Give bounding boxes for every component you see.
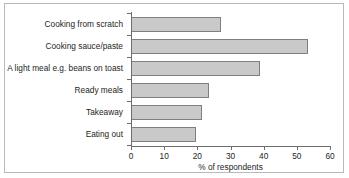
category-axis-labels: Cooking from scratch Cooking sauce/paste… (5, 13, 127, 145)
bar (131, 61, 260, 76)
x-axis-tick-label: 10 (160, 151, 169, 161)
category-label: Cooking sauce/paste (5, 41, 127, 51)
category-label: A light meal e.g. beans on toast (5, 63, 127, 73)
bar-row (131, 105, 331, 120)
bar (131, 17, 221, 32)
x-axis-tick-label: 50 (292, 151, 301, 161)
x-axis-tick (231, 146, 232, 150)
x-axis-tick (297, 146, 298, 150)
x-axis-tick-label: 40 (259, 151, 268, 161)
y-axis-tick (127, 79, 131, 80)
x-axis-tick (131, 146, 132, 150)
bar (131, 105, 202, 120)
x-axis-tick (330, 146, 331, 150)
bar-row (131, 39, 331, 54)
y-axis-tick (127, 101, 131, 102)
x-axis-tick (264, 146, 265, 150)
bar-chart-plot: Cooking from scratch Cooking sauce/paste… (5, 4, 345, 174)
bar (131, 127, 196, 142)
bar-row (131, 17, 331, 32)
x-axis-tick-label: 0 (129, 151, 134, 161)
category-label: Eating out (5, 129, 127, 139)
x-axis-title: % of respondents (131, 162, 330, 172)
x-axis-tick-label: 60 (325, 151, 334, 161)
x-axis-tick (197, 146, 198, 150)
category-label: Takeaway (5, 107, 127, 117)
bar (131, 39, 308, 54)
bar-row (131, 127, 331, 142)
y-axis-tick (127, 13, 131, 14)
x-axis-tick-label: 30 (226, 151, 235, 161)
bars-area (131, 13, 331, 145)
y-axis-tick (127, 123, 131, 124)
bar-row (131, 61, 331, 76)
y-axis-line (131, 12, 132, 146)
y-axis-tick (127, 57, 131, 58)
bar (131, 83, 209, 98)
category-label: Cooking from scratch (5, 19, 127, 29)
x-axis-tick-label: 20 (193, 151, 202, 161)
y-axis-tick (127, 35, 131, 36)
category-label: Ready meals (5, 85, 127, 95)
chart-frame: Cooking from scratch Cooking sauce/paste… (4, 3, 344, 173)
x-axis-tick (164, 146, 165, 150)
bar-row (131, 83, 331, 98)
